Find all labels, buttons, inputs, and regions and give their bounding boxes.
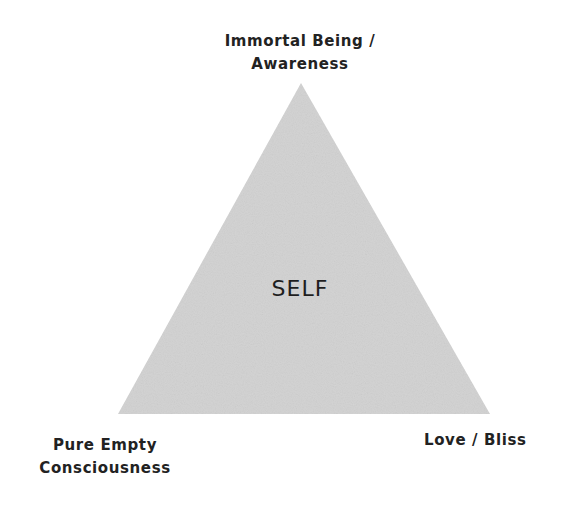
top-vertex-label: Immortal Being / Awareness [200, 30, 400, 76]
top-label-line1: Immortal Being / [200, 30, 400, 53]
center-label: SELF [245, 276, 355, 301]
top-label-line2: Awareness [200, 53, 400, 76]
left-label-line1: Pure Empty [10, 434, 200, 457]
left-label-line2: Consciousness [10, 457, 200, 480]
self-triangle-diagram: Immortal Being / Awareness SELF Pure Emp… [0, 0, 574, 508]
right-label-line1: Love / Bliss [424, 429, 554, 452]
bottom-left-vertex-label: Pure Empty Consciousness [10, 434, 200, 480]
bottom-right-vertex-label: Love / Bliss [424, 429, 554, 452]
triangle-shape [118, 83, 490, 414]
